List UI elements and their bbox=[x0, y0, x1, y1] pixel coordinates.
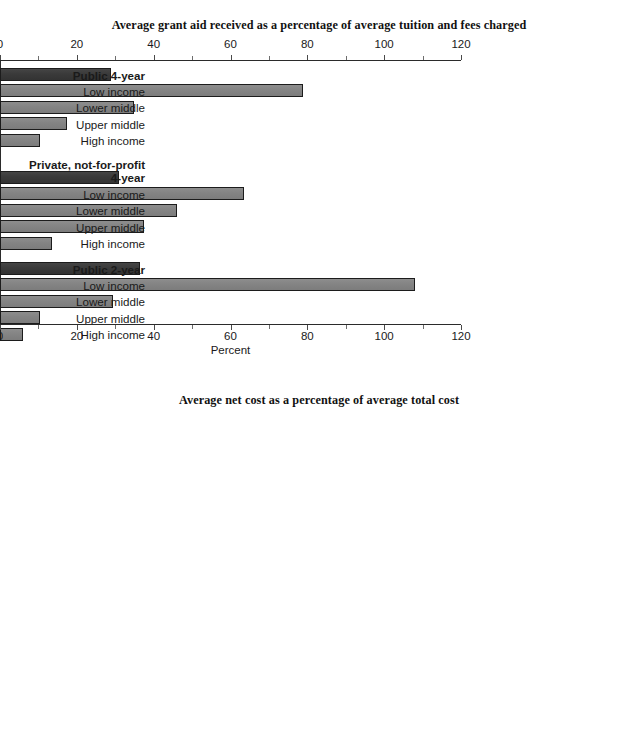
axis-tick-label: 120 bbox=[451, 330, 470, 342]
axis-tick-label: 40 bbox=[147, 330, 160, 342]
axis-tick-label: 60 bbox=[224, 38, 237, 50]
category-label-group: Private, not-for-profit4-year bbox=[29, 159, 145, 184]
bar bbox=[0, 84, 303, 97]
axis-tick bbox=[269, 56, 270, 60]
category-label: Lower middle bbox=[76, 295, 145, 308]
chart-title: Average net cost as a percentage of aver… bbox=[0, 393, 638, 408]
category-label-group: Public 4-year bbox=[73, 69, 145, 82]
axis-tick-label: 20 bbox=[70, 38, 83, 50]
category-label: Upper middle bbox=[76, 221, 145, 234]
category-label: Upper middle bbox=[76, 312, 145, 325]
axis-tick-label: 100 bbox=[375, 330, 394, 342]
category-label: High income bbox=[81, 134, 145, 147]
axis-tick-label: 0 bbox=[0, 38, 3, 50]
axis-tick-label: 40 bbox=[147, 38, 160, 50]
axis-tick-label: 120 bbox=[451, 38, 470, 50]
axis-tick-label: 60 bbox=[224, 330, 237, 342]
chart-title: Average grant aid received as a percenta… bbox=[0, 18, 638, 33]
axis-tick bbox=[38, 325, 39, 329]
category-label: Low income bbox=[83, 188, 145, 201]
axis-tick-label: 80 bbox=[301, 38, 314, 50]
axis-tick-label: 100 bbox=[375, 38, 394, 50]
axis-tick bbox=[192, 325, 193, 329]
bar bbox=[0, 117, 67, 130]
grant-aid-chart: Average grant aid received as a percenta… bbox=[0, 0, 638, 375]
category-label: Lower middle bbox=[76, 101, 145, 114]
bar bbox=[0, 134, 40, 147]
axis-tick bbox=[461, 55, 462, 60]
axis-tick bbox=[269, 325, 270, 329]
axis-tick bbox=[423, 325, 424, 329]
axis-tick-label: 0 bbox=[0, 330, 3, 342]
bar bbox=[0, 237, 52, 250]
axis-tick-label: 20 bbox=[70, 330, 83, 342]
axis-tick bbox=[115, 56, 116, 60]
axis-tick-label: 80 bbox=[301, 330, 314, 342]
axis-tick bbox=[346, 56, 347, 60]
category-label-group: Public 2-year bbox=[73, 263, 145, 276]
top-axis-line bbox=[0, 60, 461, 61]
bar bbox=[0, 278, 415, 291]
bar bbox=[0, 311, 40, 324]
category-label: Upper middle bbox=[76, 118, 145, 131]
axis-tick bbox=[423, 56, 424, 60]
category-label: Low income bbox=[83, 85, 145, 98]
category-label: High income bbox=[81, 237, 145, 250]
axis-tick bbox=[346, 325, 347, 329]
category-label: Low income bbox=[83, 279, 145, 292]
axis-tick bbox=[38, 56, 39, 60]
x-axis-caption: Percent bbox=[0, 344, 461, 356]
net-cost-chart: Average net cost as a percentage of aver… bbox=[0, 375, 638, 750]
bottom-axis-tick-labels: 020406080100120 bbox=[0, 330, 461, 344]
axis-tick bbox=[192, 56, 193, 60]
axis-tick bbox=[115, 325, 116, 329]
top-axis-tick-labels: 020406080100120 bbox=[0, 38, 461, 52]
category-label: Lower middle bbox=[76, 204, 145, 217]
